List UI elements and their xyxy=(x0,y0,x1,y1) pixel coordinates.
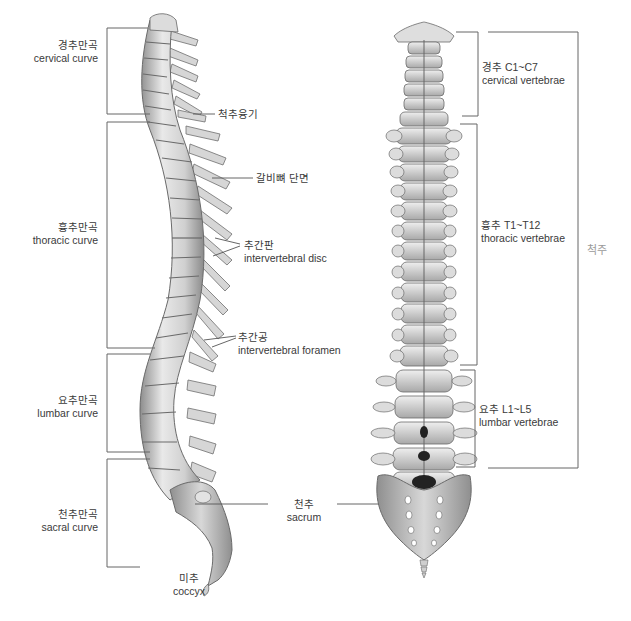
label-cervical-vertebrae: 경추 C1~C7 cervical vertebrae xyxy=(482,61,565,86)
label-thoracic-curve: 흉추만곡 thoracic curve xyxy=(0,221,98,246)
label-lumbar-vertebrae: 요추 L1~L5 lumbar vertebrae xyxy=(479,403,558,428)
thoracic-vertebrae-ko: 흉추 T1~T12 xyxy=(481,219,565,232)
spine-diagram: 경추만곡 cervical curve 흉추만곡 thoracic curve … xyxy=(0,0,631,621)
cervical-vertebrae-ko: 경추 C1~C7 xyxy=(482,61,565,74)
coccyx-ko: 미추 xyxy=(164,572,214,585)
sacral-curve-en: sacral curve xyxy=(0,521,98,534)
posterior-spine-illustration xyxy=(371,22,477,578)
intervertebral-disc-ko: 추간판 xyxy=(244,239,327,252)
label-lumbar-curve: 요추만곡 lumbar curve xyxy=(0,394,98,419)
rib-cross-section-ko: 갈비뼈 단면 xyxy=(256,172,309,185)
label-intervertebral-foramen: 추간공 intervertebral foramen xyxy=(238,331,341,356)
sacrum-en: sacrum xyxy=(276,511,332,524)
lumbar-curve-ko: 요추만곡 xyxy=(0,394,98,407)
label-vertebra-prominens: 척추융기 xyxy=(218,108,258,121)
intervertebral-foramen-ko: 추간공 xyxy=(238,331,341,344)
vertebra-prominens-ko: 척추융기 xyxy=(218,108,258,121)
cervical-vertebrae-en: cervical vertebrae xyxy=(482,74,565,87)
cervical-curve-ko: 경추만곡 xyxy=(0,39,98,52)
cervical-curve-en: cervical curve xyxy=(0,52,98,65)
thoracic-curve-ko: 흉추만곡 xyxy=(0,221,98,234)
label-intervertebral-disc: 추간판 intervertebral disc xyxy=(244,239,327,264)
label-cervical-curve: 경추만곡 cervical curve xyxy=(0,39,98,64)
label-vertebral-column: 척주 xyxy=(587,244,607,257)
thoracic-curve-en: thoracic curve xyxy=(0,234,98,247)
sacral-curve-ko: 천추만곡 xyxy=(0,508,98,521)
lumbar-vertebrae-en: lumbar vertebrae xyxy=(479,416,558,429)
lumbar-curve-en: lumbar curve xyxy=(0,407,98,420)
intervertebral-disc-en: intervertebral disc xyxy=(244,252,327,265)
label-sacral-curve: 천추만곡 sacral curve xyxy=(0,508,98,533)
thoracic-vertebrae-en: thoracic vertebrae xyxy=(481,232,565,245)
coccyx-en: coccyx xyxy=(164,585,214,598)
label-coccyx: 미추 coccyx xyxy=(164,572,214,597)
sacrum-ko: 천추 xyxy=(276,498,332,511)
lumbar-vertebrae-ko: 요추 L1~L5 xyxy=(479,403,558,416)
label-thoracic-vertebrae: 흉추 T1~T12 thoracic vertebrae xyxy=(481,219,565,244)
lateral-spine-illustration xyxy=(140,14,232,596)
label-rib-cross-section: 갈비뼈 단면 xyxy=(256,172,309,185)
intervertebral-foramen-en: intervertebral foramen xyxy=(238,344,341,357)
label-sacrum: 천추 sacrum xyxy=(276,498,332,523)
